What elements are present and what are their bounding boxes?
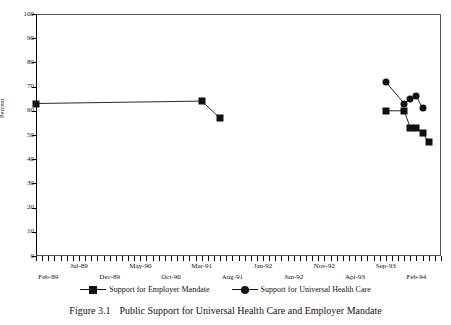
series-line bbox=[36, 101, 220, 118]
legend: Support for Employer Mandate Support for… bbox=[0, 285, 451, 294]
series-line bbox=[386, 82, 423, 109]
series-lines bbox=[0, 0, 451, 325]
figure-caption-text: Public Support for Universal Health Care… bbox=[119, 305, 381, 316]
figure-number: Figure 3.1 bbox=[69, 305, 110, 316]
legend-label-employer-mandate: Support for Employer Mandate bbox=[109, 285, 209, 294]
legend-entry-employer-mandate: Support for Employer Mandate bbox=[80, 285, 209, 294]
legend-label-universal-health-care: Support for Universal Health Care bbox=[261, 285, 371, 294]
figure-container: Percent 0102030405060708090100Jul-89May-… bbox=[0, 0, 451, 325]
legend-marker-square-icon bbox=[80, 285, 106, 294]
series-line bbox=[386, 111, 429, 143]
legend-marker-circle-icon bbox=[232, 285, 258, 294]
figure-caption: Figure 3.1Public Support for Universal H… bbox=[0, 305, 451, 316]
legend-entry-universal-health-care: Support for Universal Health Care bbox=[232, 285, 371, 294]
